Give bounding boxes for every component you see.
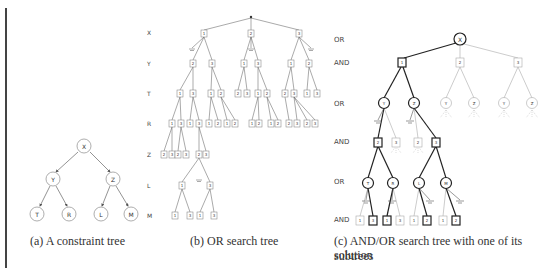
svg-text:1: 1 bbox=[386, 218, 389, 223]
svg-text:T: T bbox=[366, 181, 370, 186]
node-m: M bbox=[128, 211, 133, 218]
or-level-t: T bbox=[146, 90, 151, 97]
or-level-l: L bbox=[147, 182, 151, 189]
svg-text:2: 2 bbox=[277, 121, 280, 126]
svg-text:M: M bbox=[444, 181, 448, 186]
svg-text:3: 3 bbox=[246, 91, 249, 96]
svg-text:2: 2 bbox=[192, 61, 195, 66]
svg-text:2: 2 bbox=[258, 121, 261, 126]
svg-text:2: 2 bbox=[308, 61, 311, 66]
svg-text:Z: Z bbox=[413, 101, 416, 106]
svg-text:1: 1 bbox=[181, 183, 184, 188]
or-level-r: R bbox=[147, 120, 151, 127]
svg-text:1: 1 bbox=[208, 121, 211, 126]
svg-text:2: 2 bbox=[284, 91, 287, 96]
svg-text:2: 2 bbox=[220, 91, 223, 96]
svg-text:2: 2 bbox=[177, 152, 180, 157]
svg-text:1: 1 bbox=[203, 31, 206, 36]
svg-text:3: 3 bbox=[316, 91, 319, 96]
svg-text:3: 3 bbox=[171, 152, 174, 157]
svg-text:1: 1 bbox=[257, 91, 260, 96]
svg-text:3: 3 bbox=[314, 121, 317, 126]
svg-text:1: 1 bbox=[189, 121, 192, 126]
svg-text:1: 1 bbox=[270, 121, 273, 126]
svg-text:2: 2 bbox=[217, 121, 220, 126]
svg-text:Z: Z bbox=[531, 101, 534, 106]
svg-text:3: 3 bbox=[211, 61, 214, 66]
svg-text:1: 1 bbox=[442, 218, 445, 223]
svg-text:3: 3 bbox=[180, 121, 183, 126]
svg-text:R: R bbox=[392, 181, 395, 186]
svg-text:3: 3 bbox=[435, 140, 438, 145]
svg-text:2: 2 bbox=[306, 121, 309, 126]
or-level-z: Z bbox=[147, 151, 151, 158]
svg-text:1: 1 bbox=[251, 121, 254, 126]
or-search-tree: X Y T R Z L M bbox=[146, 16, 320, 219]
svg-text:2: 2 bbox=[234, 121, 237, 126]
figure-canvas: X Y Z T R L M X Y T R Z L M bbox=[0, 0, 557, 268]
svg-text:1: 1 bbox=[171, 121, 174, 126]
node-r: R bbox=[67, 211, 71, 218]
svg-text:1: 1 bbox=[413, 218, 416, 223]
svg-text:3: 3 bbox=[209, 183, 212, 188]
svg-text:2: 2 bbox=[250, 31, 253, 36]
svg-text:3: 3 bbox=[257, 61, 260, 66]
node-z: Z bbox=[111, 176, 115, 183]
or-level-x: X bbox=[147, 29, 151, 36]
ao-level-or-2: OR bbox=[334, 100, 345, 108]
or-level-y: Y bbox=[146, 60, 151, 67]
svg-text:3: 3 bbox=[189, 213, 192, 218]
caption-b: (b) OR search tree bbox=[190, 234, 278, 248]
ao-level-and-3: AND bbox=[334, 216, 349, 224]
svg-text:2: 2 bbox=[198, 152, 201, 157]
svg-text:3: 3 bbox=[399, 218, 402, 223]
caption-a: (a) A constraint tree bbox=[30, 234, 125, 248]
ao-level-and-2: AND bbox=[334, 138, 349, 146]
ao-level-or-3: OR bbox=[334, 178, 345, 186]
svg-text:1: 1 bbox=[359, 218, 362, 223]
svg-text:1: 1 bbox=[210, 91, 213, 96]
svg-text:1: 1 bbox=[243, 61, 246, 66]
svg-text:Y: Y bbox=[444, 101, 448, 106]
svg-text:X: X bbox=[458, 36, 462, 43]
svg-text:3: 3 bbox=[372, 218, 375, 223]
svg-text:2: 2 bbox=[417, 140, 420, 145]
svg-text:2: 2 bbox=[163, 152, 166, 157]
svg-text:3: 3 bbox=[395, 140, 398, 145]
and-or-search-tree: OR AND OR AND OR AND bbox=[334, 33, 538, 225]
svg-text:3: 3 bbox=[296, 121, 299, 126]
svg-text:2: 2 bbox=[377, 140, 380, 145]
svg-text:2: 2 bbox=[459, 60, 462, 65]
ao-level-and-1: AND bbox=[334, 59, 349, 67]
caption-c-line2: subtrees bbox=[334, 249, 373, 263]
svg-text:2: 2 bbox=[455, 218, 458, 223]
svg-text:1: 1 bbox=[199, 213, 202, 218]
svg-text:Y: Y bbox=[382, 101, 386, 106]
svg-text:Y: Y bbox=[502, 101, 506, 106]
svg-text:2: 2 bbox=[237, 91, 240, 96]
or-level-m: M bbox=[147, 212, 152, 219]
node-y: Y bbox=[50, 176, 55, 183]
svg-text:3: 3 bbox=[298, 31, 301, 36]
svg-text:1: 1 bbox=[290, 61, 293, 66]
svg-text:3: 3 bbox=[213, 213, 216, 218]
svg-text:Z: Z bbox=[473, 101, 476, 106]
svg-text:3: 3 bbox=[293, 91, 296, 96]
node-t: T bbox=[34, 211, 39, 218]
svg-text:3: 3 bbox=[192, 91, 195, 96]
svg-text:3: 3 bbox=[198, 121, 201, 126]
svg-text:2: 2 bbox=[426, 218, 429, 223]
svg-text:1: 1 bbox=[226, 121, 229, 126]
svg-text:1: 1 bbox=[179, 91, 182, 96]
node-x: X bbox=[82, 143, 86, 150]
constraint-tree: X Y Z T R L M bbox=[30, 139, 138, 221]
ao-level-or-1: OR bbox=[334, 36, 345, 44]
svg-text:1: 1 bbox=[306, 91, 309, 96]
svg-text:3: 3 bbox=[205, 152, 208, 157]
svg-text:3: 3 bbox=[185, 152, 188, 157]
svg-text:1: 1 bbox=[174, 213, 177, 218]
svg-text:2: 2 bbox=[266, 91, 269, 96]
svg-text:3: 3 bbox=[517, 60, 520, 65]
svg-text:1: 1 bbox=[401, 60, 404, 65]
svg-text:2: 2 bbox=[288, 121, 291, 126]
